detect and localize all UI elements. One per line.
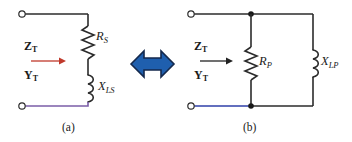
zt-yt-arrow-a <box>31 58 66 65</box>
terminal-bottom-b <box>188 103 194 109</box>
terminal-bottom-a <box>19 103 25 109</box>
equivalence-double-arrow <box>131 51 174 77</box>
inductor-xlp-label: XLP <box>321 55 339 68</box>
wire-bottom-a <box>25 102 88 106</box>
impedance-label-a: ZT <box>24 40 37 52</box>
inductor-xls-symbol <box>88 75 93 102</box>
junction-node-bottom-b <box>248 103 254 109</box>
inductor-xlp-symbol <box>313 50 318 77</box>
admittance-label-b: YT <box>194 69 208 81</box>
inductor-xls-label: XLS <box>98 80 115 93</box>
resistor-rs-label: RS <box>96 30 108 43</box>
resistor-rp-label: RP <box>259 55 272 68</box>
caption-b: (b) <box>243 122 256 134</box>
impedance-label-b: ZT <box>194 40 207 52</box>
series-circuit-panel-a <box>19 11 94 109</box>
admittance-label-a: YT <box>24 69 38 81</box>
equivalent-circuits-figure <box>0 0 352 142</box>
terminal-top-b <box>188 11 194 17</box>
caption-a: (a) <box>62 122 75 134</box>
resistor-rs-symbol <box>82 26 94 59</box>
terminal-top-a <box>19 11 25 17</box>
zt-yt-arrow-b <box>200 58 233 65</box>
parallel-circuit-panel-b <box>188 11 318 109</box>
resistor-rp-symbol <box>245 47 257 80</box>
